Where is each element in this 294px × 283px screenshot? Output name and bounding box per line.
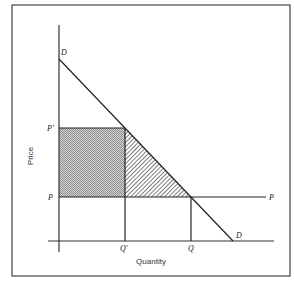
label-price-high: P'	[46, 124, 54, 133]
label-quantity-low: Q'	[120, 244, 128, 253]
y-axis-title: Price	[26, 146, 35, 165]
label-quantity-high: Q	[188, 244, 194, 253]
label-price-line-end: P	[268, 193, 274, 202]
label-demand-top: D	[60, 48, 67, 57]
x-axis-title: Quantity	[136, 257, 166, 266]
label-price-low: P	[47, 193, 53, 202]
shaded-rectangle	[59, 128, 125, 197]
figure-border	[12, 5, 290, 276]
economics-diagram: D D P' P P Q' Q Quantity Price	[0, 0, 294, 283]
label-demand-bottom: D	[235, 231, 242, 240]
